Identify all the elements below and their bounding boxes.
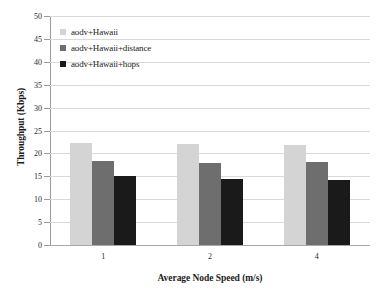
y-tick-mark: [44, 176, 50, 177]
gridline: [50, 108, 370, 109]
y-tick-mark: [44, 62, 50, 63]
y-tick-mark: [44, 222, 50, 223]
x-tick-label: 4: [315, 252, 319, 261]
bar: [328, 180, 350, 245]
y-tick-label: 40: [14, 57, 42, 66]
bar: [70, 143, 92, 245]
legend-label: aodv+Hawaii+hops: [71, 59, 139, 69]
bar: [199, 163, 221, 245]
y-axis-tick-labels: 05101520253035404550: [8, 16, 42, 245]
y-tick-label: 0: [14, 241, 42, 250]
y-tick-mark: [44, 131, 50, 132]
legend-label: aodv+Hawaii: [71, 27, 118, 37]
gridline: [50, 85, 370, 86]
bar: [114, 176, 136, 245]
bar: [177, 144, 199, 245]
y-tick-label: 20: [14, 149, 42, 158]
x-axis-tick-labels: 124: [50, 252, 370, 266]
y-tick-label: 30: [14, 103, 42, 112]
x-axis-title: Average Node Speed (m/s): [50, 273, 370, 283]
y-tick-mark: [44, 153, 50, 154]
y-tick-mark: [44, 199, 50, 200]
y-tick-label: 5: [14, 218, 42, 227]
legend-label: aodv+Hawaii+distance: [71, 43, 151, 53]
bar: [92, 161, 114, 245]
x-axis-baseline: [50, 245, 370, 246]
y-tick-label: 10: [14, 195, 42, 204]
y-tick-mark: [44, 245, 50, 246]
gridline: [50, 153, 370, 154]
y-tick-label: 45: [14, 34, 42, 43]
y-tick-label: 15: [14, 172, 42, 181]
legend-item: aodv+Hawaii+distance: [60, 40, 210, 56]
y-tick-label: 35: [14, 80, 42, 89]
bar: [284, 145, 306, 245]
x-tick-label: 2: [208, 252, 212, 261]
gridline: [50, 131, 370, 132]
legend-swatch-icon: [60, 29, 66, 35]
gridline: [50, 16, 370, 17]
bar-chart: Throughput (Kbps) 05101520253035404550 1…: [0, 0, 385, 296]
y-tick-mark: [44, 108, 50, 109]
legend-swatch-icon: [60, 61, 66, 67]
legend-swatch-icon: [60, 45, 66, 51]
bar: [306, 162, 328, 245]
y-tick-mark: [44, 39, 50, 40]
x-tick-label: 1: [101, 252, 105, 261]
chart-legend: aodv+Hawaiiaodv+Hawaii+distanceaodv+Hawa…: [60, 24, 210, 72]
y-tick-mark: [44, 85, 50, 86]
bar: [221, 179, 243, 245]
legend-item: aodv+Hawaii+hops: [60, 56, 210, 72]
y-tick-label: 50: [14, 12, 42, 21]
legend-item: aodv+Hawaii: [60, 24, 210, 40]
y-tick-label: 25: [14, 126, 42, 135]
y-tick-mark: [44, 16, 50, 17]
